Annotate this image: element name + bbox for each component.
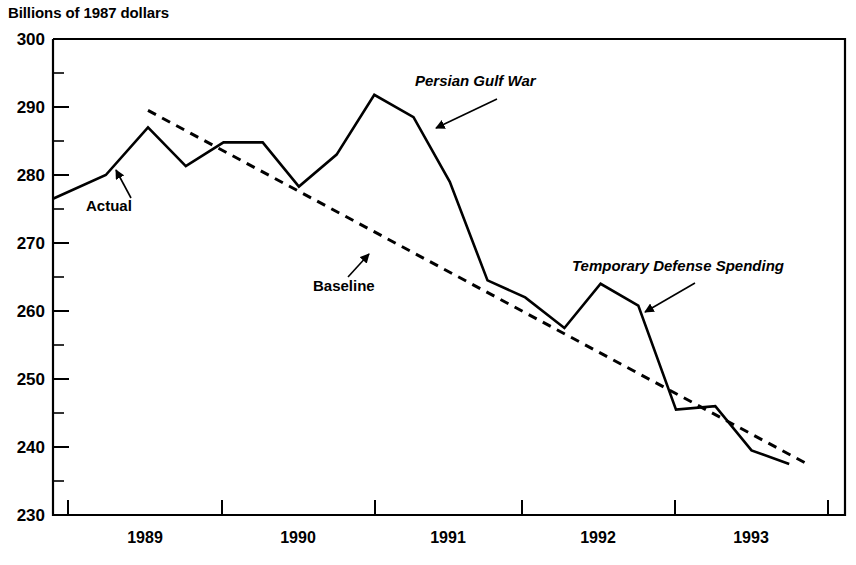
x-axis-tick-labels: 1989 1990 1991 1992 1993 (127, 529, 769, 546)
annotation-actual: Actual (86, 170, 132, 214)
chart-container: Billions of 1987 dollars (0, 0, 856, 565)
y-tick-label: 270 (17, 234, 45, 253)
annotation-persian-gulf-war: Persian Gulf War (415, 72, 537, 128)
annotation-arrow-temporary-defense-spending (645, 283, 695, 312)
annotation-label-persian-gulf-war: Persian Gulf War (415, 72, 537, 89)
annotation-label-baseline: Baseline (313, 277, 375, 294)
y-tick-label: 240 (17, 438, 45, 457)
annotation-arrow-persian-gulf-war (436, 99, 497, 128)
x-tick-label: 1989 (127, 529, 163, 546)
x-tick-label: 1990 (280, 529, 316, 546)
annotation-label-actual: Actual (86, 197, 132, 214)
y-tick-label: 280 (17, 166, 45, 185)
annotation-arrow-actual (116, 170, 131, 198)
y-tick-label: 260 (17, 302, 45, 321)
x-tick-label: 1991 (430, 529, 466, 546)
y-axis-tick-labels: 300 290 280 270 260 250 240 230 (17, 30, 45, 525)
y-tick-label: 300 (17, 30, 45, 49)
series-actual-line (53, 95, 789, 464)
plot-frame (53, 39, 845, 515)
annotation-baseline: Baseline (313, 254, 375, 294)
line-chart-plot: 300 290 280 270 260 250 240 230 1989 199… (0, 0, 856, 565)
x-axis-ticks (68, 500, 828, 515)
y-axis-minor-ticks (53, 73, 64, 481)
annotation-label-temporary-defense-spending: Temporary Defense Spending (572, 257, 784, 274)
y-tick-label: 230 (17, 506, 45, 525)
x-tick-label: 1992 (580, 529, 616, 546)
series-baseline-line (148, 110, 807, 464)
x-tick-label: 1993 (733, 529, 769, 546)
y-tick-label: 290 (17, 98, 45, 117)
annotation-arrow-baseline (348, 254, 369, 277)
y-tick-label: 250 (17, 370, 45, 389)
